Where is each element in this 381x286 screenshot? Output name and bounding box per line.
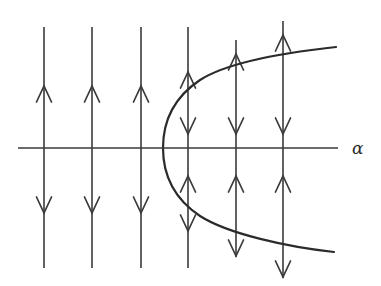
diagram-canvas: [0, 0, 381, 286]
flow-line-6: [276, 21, 291, 278]
alpha-axis-label: α: [352, 140, 363, 157]
bifurcation-diagram-figure: α: [0, 0, 381, 286]
fixed-point-curve-group: [163, 47, 336, 252]
